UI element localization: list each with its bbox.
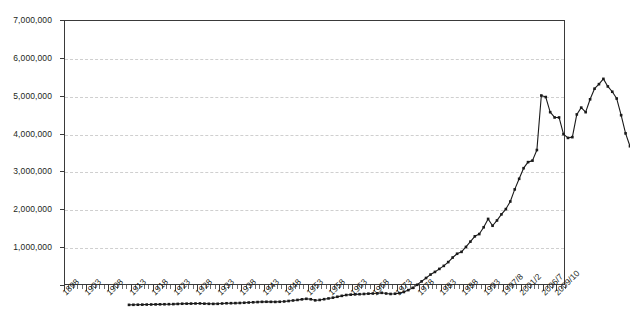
x-tick-mark: [126, 285, 127, 289]
data-point: [527, 161, 530, 164]
data-point: [536, 149, 539, 152]
series-group: [129, 41, 630, 306]
data-point: [593, 87, 596, 90]
data-point: [482, 226, 485, 229]
data-point: [478, 233, 481, 236]
data-point: [615, 97, 618, 100]
data-point: [505, 208, 508, 211]
data-point: [487, 218, 490, 221]
data-point: [509, 200, 512, 203]
data-point: [518, 178, 521, 181]
data-point: [451, 256, 454, 259]
data-point: [544, 96, 547, 99]
data-point: [580, 106, 583, 109]
data-point: [465, 246, 468, 249]
data-point: [607, 85, 610, 88]
y-tick-label: 1,000,000: [13, 243, 52, 252]
data-point: [540, 94, 543, 97]
x-tick-mark: [148, 285, 149, 289]
data-point: [469, 240, 472, 243]
data-point: [562, 133, 565, 136]
data-point: [549, 111, 552, 114]
data-point: [571, 136, 574, 139]
data-point: [576, 113, 579, 116]
x-tick-mark: [392, 285, 393, 289]
data-point: [567, 137, 570, 140]
data-point: [584, 111, 587, 114]
data-point: [553, 116, 556, 119]
series-markers: [128, 78, 630, 307]
y-tick-label: 4,000,000: [13, 129, 52, 138]
data-point: [500, 213, 503, 216]
plot-area: [64, 20, 565, 285]
y-tick-label: 6,000,000: [13, 54, 52, 63]
y-tick-label: 5,000,000: [13, 91, 52, 100]
x-axis: 1898190319081913191819231928193319381943…: [0, 291, 581, 329]
x-tick-mark: [259, 285, 260, 289]
data-point: [513, 188, 516, 191]
data-point: [496, 219, 499, 222]
data-point: [602, 78, 605, 81]
data-point: [442, 265, 445, 268]
data-point: [429, 273, 432, 276]
y-tick-label: 3,000,000: [13, 167, 52, 176]
data-point: [438, 268, 441, 271]
data-point: [456, 252, 459, 255]
x-tick-mark: [414, 285, 415, 289]
data-point: [624, 132, 627, 135]
y-tick-label: 7,000,000: [13, 16, 52, 25]
series-line: [129, 79, 630, 305]
data-point: [620, 114, 623, 117]
data-point: [589, 98, 592, 101]
data-point: [531, 159, 534, 162]
data-point: [558, 116, 561, 119]
y-axis: 1,000,0002,000,0003,000,0004,000,0005,00…: [0, 20, 60, 285]
data-point: [434, 271, 437, 274]
y-tick-label: 2,000,000: [13, 205, 52, 214]
data-point: [598, 83, 601, 86]
data-point: [460, 251, 463, 254]
data-point: [474, 235, 477, 238]
data-point: [491, 224, 494, 227]
data-point: [611, 90, 614, 93]
x-tick-mark: [281, 285, 282, 289]
data-point: [522, 167, 525, 170]
data-point: [447, 261, 450, 264]
